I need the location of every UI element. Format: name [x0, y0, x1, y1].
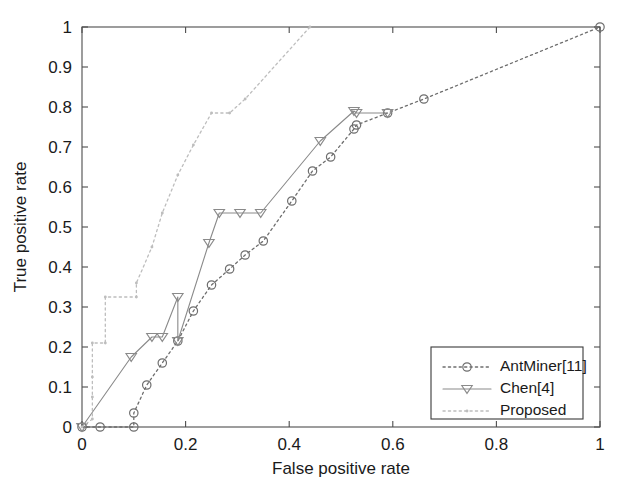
series-line: [82, 27, 310, 427]
x-tick-label-5: 1: [595, 435, 604, 454]
data-point: [228, 112, 231, 115]
data-point: [210, 112, 213, 115]
x-axis-title: False positive rate: [272, 459, 410, 478]
x-tick-label-0: 0: [77, 435, 86, 454]
y-tick-label-6: 0.6: [48, 178, 72, 197]
chart-legend: AntMiner[11]Chen[4]Proposed: [431, 347, 587, 419]
y-tick-label-3: 0.3: [48, 298, 72, 317]
data-point: [91, 418, 94, 421]
data-point: [244, 98, 247, 101]
data-point: [288, 197, 296, 205]
legend-label: Proposed: [500, 401, 566, 418]
data-point: [91, 376, 94, 379]
x-tick-label-3: 0.6: [381, 435, 405, 454]
data-point: [176, 174, 179, 177]
data-point: [135, 296, 138, 299]
legend-label: Chen[4]: [500, 379, 554, 396]
data-point: [135, 282, 138, 285]
x-tick-label-4: 0.8: [485, 435, 509, 454]
data-point: [161, 212, 164, 215]
data-point: [308, 26, 311, 29]
data-point: [104, 342, 107, 345]
x-tick-label-2: 0.4: [277, 435, 301, 454]
data-point: [326, 153, 334, 161]
y-tick-label-10: 1: [63, 18, 72, 37]
data-point: [104, 296, 107, 299]
y-tick-label-1: 0.1: [48, 378, 72, 397]
data-point: [151, 246, 154, 249]
y-tick-label-9: 0.9: [48, 58, 72, 77]
data-point: [81, 426, 84, 429]
legend-sample-marker: [466, 410, 469, 413]
data-point: [420, 95, 428, 103]
data-point: [91, 396, 94, 399]
y-tick-label-2: 0.2: [48, 338, 72, 357]
y-tick-label-5: 0.5: [48, 218, 72, 237]
series-line: [82, 111, 388, 427]
y-tick-label-0: 0: [63, 418, 72, 437]
y-axis-tick-labels: 00.10.20.30.40.50.60.70.80.91: [48, 18, 72, 437]
roc-chart-svg: 00.20.40.60.81 00.10.20.30.40.50.60.70.8…: [0, 0, 633, 496]
legend-label: AntMiner[11]: [500, 357, 587, 374]
y-axis-title: True positive rate: [11, 162, 30, 293]
data-point: [259, 237, 267, 245]
data-point: [91, 342, 94, 345]
x-axis-tick-labels: 00.20.40.60.81: [77, 435, 604, 454]
data-point: [192, 144, 195, 147]
y-tick-label-4: 0.4: [48, 258, 72, 277]
series-chen-4: [77, 107, 393, 431]
y-tick-label-7: 0.7: [48, 138, 72, 157]
x-tick-label-1: 0.2: [174, 435, 198, 454]
roc-chart-figure: 00.20.40.60.81 00.10.20.30.40.50.60.70.8…: [0, 0, 633, 496]
series-proposed: [81, 26, 312, 429]
y-tick-label-8: 0.8: [48, 98, 72, 117]
